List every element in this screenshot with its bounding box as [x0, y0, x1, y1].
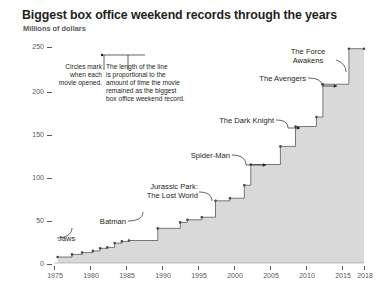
label-jaws: Jaws	[58, 234, 75, 243]
data-point-marker	[179, 221, 182, 224]
chart-plot-area	[0, 0, 388, 296]
chart-container: Biggest box office weekend records throu…	[0, 0, 388, 296]
note-line-length: The length of the line is proportional t…	[106, 63, 196, 103]
data-point-marker	[81, 251, 84, 254]
data-point-marker	[243, 184, 246, 187]
label-dark-knight: The Dark Knight	[194, 116, 274, 125]
note-length-line-2: is proportional to the	[106, 71, 196, 79]
data-point-marker	[229, 197, 232, 200]
leader-line-force	[336, 60, 346, 72]
data-point-marker	[315, 116, 318, 119]
data-point-marker	[157, 227, 160, 230]
data-point-marker	[106, 246, 109, 249]
data-point-marker	[363, 47, 366, 50]
label-force-line-2: Awakens	[282, 56, 334, 65]
leader-line-batman	[128, 212, 143, 221]
data-point-marker	[99, 247, 102, 250]
data-point-marker	[113, 242, 116, 245]
note-circles-line-3: movie opened.	[40, 79, 102, 87]
data-point-marker	[121, 240, 124, 243]
note-circles-line-2: when each	[40, 71, 102, 79]
leader-line-darkknight	[276, 120, 288, 128]
note-length-line-4: remained as the biggest	[106, 87, 196, 95]
note-length-line-1: The length of the line	[106, 63, 196, 71]
label-force-line-1: The Force	[282, 47, 334, 56]
data-point-marker	[128, 239, 131, 242]
data-point-marker	[294, 125, 297, 128]
data-point-marker	[214, 200, 217, 203]
label-force-awakens: The Force Awakens	[282, 47, 334, 66]
label-batman: Batman	[78, 217, 126, 226]
leader-line-spiderman	[232, 155, 246, 165]
label-avengers: The Avengers	[236, 74, 306, 83]
callout-dot	[101, 54, 103, 56]
data-point-marker	[348, 47, 351, 50]
note-length-line-5: box office weekend record.	[106, 95, 196, 103]
label-jurassic-line-2: The Lost World	[130, 191, 198, 200]
data-point-marker	[250, 163, 253, 166]
data-point-marker	[279, 145, 282, 148]
leader-line-avengers	[308, 78, 322, 86]
data-point-marker	[201, 216, 204, 219]
note-length-line-3: amount of time the movie	[106, 79, 196, 87]
data-point-marker	[56, 256, 59, 259]
data-point-marker	[92, 250, 95, 253]
leader-line-jurassic	[199, 192, 212, 201]
note-circles-mark: Circles mark when each movie opened.	[40, 63, 102, 87]
data-point-marker	[186, 219, 189, 222]
label-jurassic-line-1: Jurassic Park:	[130, 182, 198, 191]
note-circles-line-1: Circles mark	[40, 63, 102, 71]
label-spiderman: Spider-Man	[168, 151, 230, 160]
label-jurassic-park: Jurassic Park: The Lost World	[130, 182, 198, 201]
data-point-marker	[71, 253, 74, 256]
